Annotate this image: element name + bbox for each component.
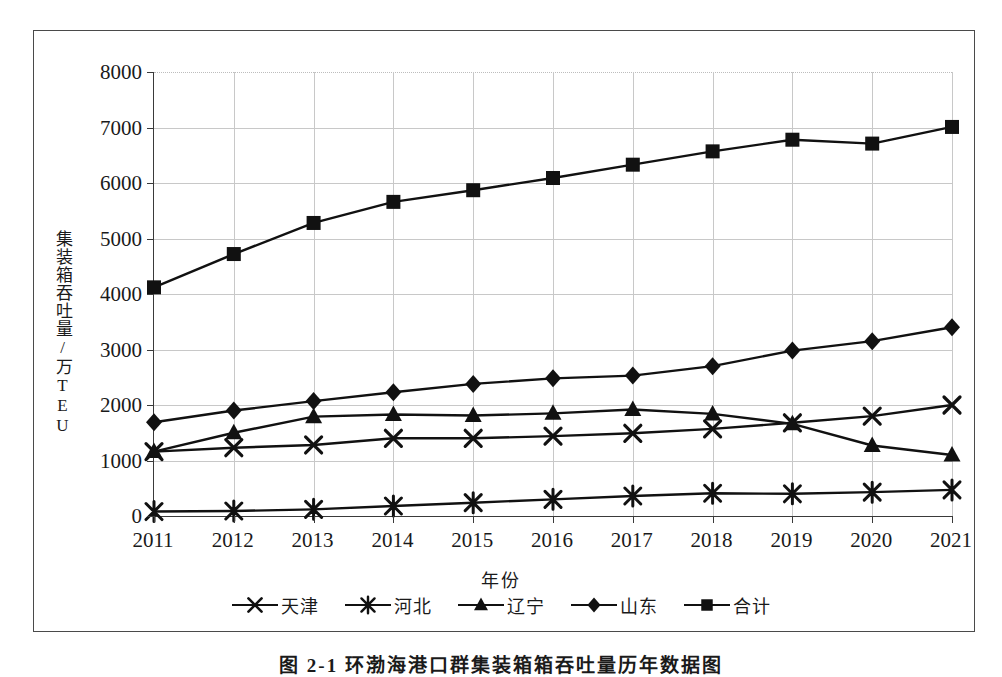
x-axis-tick [952,516,953,523]
x-tick-label: 2013 [292,528,334,552]
y-tick-label: 3000 [100,339,142,361]
y-axis-title: 集装箱吞吐量/万TEU [47,188,77,478]
legend-label: 天津 [281,592,319,618]
y-axis-tick [147,350,154,351]
legend-marker-diamond-icon [571,596,617,614]
x-tick-label: 2016 [531,528,573,552]
x-axis-tick [234,516,235,523]
legend-marker-x-cross-icon [232,596,278,614]
y-tick-label: 6000 [100,172,142,194]
x-tick-label: 2017 [611,528,653,552]
x-axis-title: 年份 [0,566,1002,592]
x-tick-label: 2019 [770,528,812,552]
x-axis-tick [713,516,714,523]
y-axis-tick [147,516,154,517]
legend-marker-triangle-icon [458,596,504,614]
x-tick-label: 2014 [371,528,413,552]
y-axis-tick [147,128,154,129]
y-tick-label: 0 [132,505,143,527]
legend-item-河北[interactable]: 河北 [345,592,432,618]
legend-item-天津[interactable]: 天津 [232,592,319,618]
legend-label: 山东 [620,592,658,618]
legend-marker-asterisk-icon [345,596,391,614]
y-axis-tick-labels: 010002000300040005000600070008000 [78,60,148,530]
x-tick-label: 2012 [212,528,254,552]
legend-label: 河北 [394,592,432,618]
y-axis-tick [147,183,154,184]
figure-caption: 图 2-1 环渤海港口群集装箱箱吞吐量历年数据图 [0,650,1002,677]
x-tick-label: 2015 [451,528,493,552]
y-tick-label: 4000 [100,283,142,305]
y-axis-tick [147,294,154,295]
y-tick-label: 2000 [100,394,142,416]
legend-item-合计[interactable]: 合计 [684,592,771,618]
x-axis-tick [792,516,793,523]
legend-item-辽宁[interactable]: 辽宁 [458,592,545,618]
chart-legend: 天津河北辽宁山东合计 [0,592,1002,618]
x-axis-tick [314,516,315,523]
series-layer [154,72,952,516]
x-tick-label: 2011 [132,528,173,552]
legend-marker-square-icon [684,596,730,614]
x-axis-tick [872,516,873,523]
x-axis-tick [553,516,554,523]
plot-area [153,72,952,517]
x-axis-tick [473,516,474,523]
x-axis-tick [154,516,155,523]
y-axis-tick [147,72,154,73]
y-tick-label: 7000 [100,117,142,139]
legend-label: 合计 [733,592,771,618]
legend-label: 辽宁 [507,592,545,618]
y-tick-label: 8000 [100,61,142,83]
x-axis-tick-labels: 2011201220132014201520162017201820192020… [153,528,951,558]
y-axis-tick [147,461,154,462]
x-tick-label: 2021 [930,528,972,552]
y-tick-label: 5000 [100,228,142,250]
x-tick-label: 2020 [850,528,892,552]
x-tick-label: 2018 [691,528,733,552]
legend-item-山东[interactable]: 山东 [571,592,658,618]
y-axis-tick [147,239,154,240]
x-axis-tick [633,516,634,523]
y-tick-label: 1000 [100,450,142,472]
y-axis-tick [147,405,154,406]
x-axis-tick [393,516,394,523]
